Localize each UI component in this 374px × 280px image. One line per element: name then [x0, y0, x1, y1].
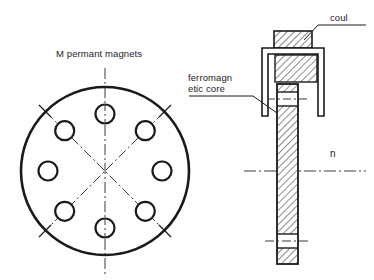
label-coil: coul — [330, 12, 348, 23]
magnet-hole — [136, 121, 155, 140]
label-core-line2: etic core — [188, 83, 225, 94]
label-ferromagnetic-core: ferromagnetic core — [188, 72, 232, 94]
magnet-hole — [153, 162, 172, 181]
core-hatch-main-body — [278, 106, 297, 234]
coil-core-section-view — [189, 25, 366, 264]
label-core-line1: ferromagn — [188, 72, 232, 83]
magnet-hole — [55, 202, 74, 221]
core-hatch-bottom-stub — [278, 248, 297, 263]
magnet-hole — [39, 162, 58, 181]
diagram-canvas: M permant magnets ferromagnetic core cou… — [0, 0, 374, 280]
rotor-face-view — [21, 68, 189, 276]
core-hatch-top-stub — [278, 85, 297, 92]
diagram-vector-layer — [0, 0, 374, 280]
coil-upper-winding-block — [274, 31, 312, 48]
label-axis-n: n — [330, 148, 336, 159]
magnet-hole — [136, 202, 155, 221]
label-permanent-magnets: M permant magnets — [56, 48, 142, 59]
magnet-hole — [55, 121, 74, 140]
coil-leader-line — [304, 25, 366, 40]
coil-inner-winding-block — [275, 55, 317, 82]
